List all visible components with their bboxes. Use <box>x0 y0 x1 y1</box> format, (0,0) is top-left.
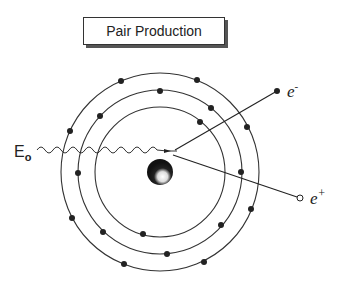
electron-label: e- <box>287 80 298 102</box>
electron-track <box>175 91 277 150</box>
electron-particle <box>274 88 280 94</box>
atom-diagram <box>0 0 342 286</box>
photon-wave <box>37 147 177 153</box>
arrowhead-icon <box>164 149 171 153</box>
nucleus <box>147 159 173 185</box>
positron-particle <box>297 195 303 201</box>
photon-energy-label: Eo <box>14 143 31 163</box>
positron-track <box>173 155 297 197</box>
positron-label: e+ <box>310 186 326 209</box>
